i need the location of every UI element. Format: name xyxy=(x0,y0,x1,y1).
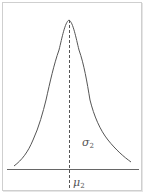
sigma-label: σ2 xyxy=(82,137,94,150)
bell-curve-plot xyxy=(0,0,146,195)
mu-label: μ2 xyxy=(73,177,85,190)
sigma-subscript: 2 xyxy=(90,142,94,150)
sigma-symbol: σ xyxy=(82,136,90,149)
mu-subscript: 2 xyxy=(80,182,84,190)
distribution-curve xyxy=(14,20,131,166)
